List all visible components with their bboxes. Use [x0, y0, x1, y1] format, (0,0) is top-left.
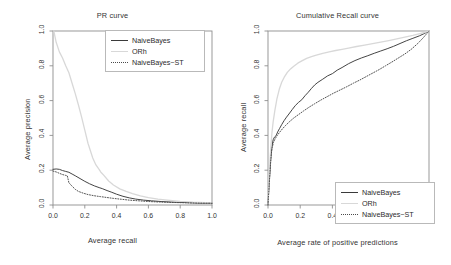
x-tick-label: 0.0 — [257, 212, 279, 219]
figure-canvas: PR curve Average recall Average precisio… — [0, 0, 451, 265]
x-tick-label: 0.2 — [289, 212, 311, 219]
y-tick-label: 1.0 — [253, 19, 260, 41]
y-tick-label: 1.0 — [38, 19, 45, 41]
y-tick-label: 0.2 — [253, 158, 260, 180]
y-tick-label: 0.4 — [38, 123, 45, 145]
legend-line-swatch-icon — [339, 209, 359, 220]
y-tick-label: 0.6 — [253, 88, 260, 110]
x-tick-label: 0.4 — [106, 212, 128, 219]
legend-item: NaiveBayes−ST — [109, 57, 201, 68]
legend-line-swatch-icon — [109, 35, 129, 46]
y-tick-label: 0.0 — [38, 193, 45, 215]
pr-curve-yaxis-label: Average precision — [23, 98, 32, 160]
y-tick-label: 0.8 — [253, 53, 260, 75]
y-tick-label: 0.2 — [38, 158, 45, 180]
legend-item: NaiveBayes — [339, 187, 431, 198]
legend-item-label: NaiveBayes — [359, 188, 400, 197]
x-tick-label: 1.0 — [201, 212, 223, 219]
legend-item-label: NaiveBayes — [129, 36, 170, 45]
cumulative-recall-legend: NaiveBayesORhNaiveBayes−ST — [335, 182, 435, 224]
cumulative-recall-xaxis-label: Average rate of positive predictions — [225, 238, 450, 247]
y-tick-label: 0.8 — [38, 53, 45, 75]
x-tick-label: 0.6 — [137, 212, 159, 219]
y-tick-label: 0.4 — [253, 123, 260, 145]
legend-line-swatch-icon — [109, 46, 129, 57]
cumulative-recall-yaxis-label: Average recall — [239, 103, 248, 152]
x-tick-label: 0.8 — [169, 212, 191, 219]
pr-curve-xaxis-label: Average recall — [0, 236, 225, 245]
y-tick-label: 0.0 — [253, 193, 260, 215]
pr-curve-panel: PR curve Average recall Average precisio… — [0, 0, 225, 265]
legend-line-swatch-icon — [339, 198, 359, 209]
legend-line-swatch-icon — [339, 187, 359, 198]
x-tick-label: 0.2 — [74, 212, 96, 219]
legend-item: ORh — [109, 46, 201, 57]
legend-item: NaiveBayes — [109, 35, 201, 46]
legend-item-label: NaiveBayes−ST — [359, 210, 414, 219]
legend-item: ORh — [339, 198, 431, 209]
legend-item-label: ORh — [359, 199, 377, 208]
legend-line-swatch-icon — [109, 57, 129, 68]
x-tick-label: 0.0 — [42, 212, 64, 219]
y-tick-label: 0.6 — [38, 88, 45, 110]
cumulative-recall-panel: Cumulative Recall curve Average rate of … — [225, 0, 450, 265]
legend-item-label: ORh — [129, 47, 147, 56]
pr-curve-legend: NaiveBayesORhNaiveBayes−ST — [105, 30, 205, 72]
legend-item: NaiveBayes−ST — [339, 209, 431, 220]
legend-item-label: NaiveBayes−ST — [129, 58, 184, 67]
